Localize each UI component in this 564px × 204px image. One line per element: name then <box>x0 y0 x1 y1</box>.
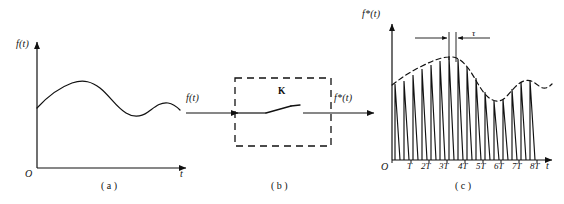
panel-c-tick-3T: 3T <box>439 161 449 171</box>
pulse <box>404 81 409 160</box>
panel-a <box>37 42 186 168</box>
panel-a-signal-curve <box>37 81 180 116</box>
panel-c-caption: ( c ) <box>455 180 471 191</box>
panel-c-tick-6T: 6T <box>494 161 504 171</box>
panel-c-tick-5T: 5T <box>476 161 486 171</box>
pulse <box>485 92 490 160</box>
pulse <box>476 78 481 160</box>
panel-b-input-label: f(t) <box>186 92 199 103</box>
pulse <box>413 75 418 160</box>
pulse <box>422 69 427 160</box>
sampling-figure <box>0 0 564 204</box>
panel-b-output-label: f*(t) <box>334 92 352 103</box>
pulse <box>512 89 517 160</box>
panel-a-x-axis-label: t <box>180 168 183 179</box>
pulse <box>467 67 472 160</box>
panel-c-tick-7T: 7T <box>512 161 522 171</box>
panel-a-origin-label: O <box>25 168 32 179</box>
panel-a-y-axis-label: f(t) <box>16 38 29 49</box>
pulse <box>530 80 535 160</box>
pulse <box>449 57 454 160</box>
panel-c-tick-2T: 2T <box>421 161 431 171</box>
panel-b-caption: ( b ) <box>271 180 288 191</box>
panel-c-x-axis-label: t <box>546 160 549 171</box>
pulse <box>503 99 508 160</box>
panel-c-pulse-train <box>395 57 535 160</box>
panel-c-y-axis-label: f*(t) <box>362 8 380 19</box>
panel-c-envelope-curve <box>392 57 552 101</box>
panel-c-tau-label: τ <box>472 28 475 38</box>
panel-b-switch-lever <box>266 106 291 113</box>
pulse <box>431 65 436 160</box>
pulse <box>440 61 445 160</box>
panel-c-tick-8T: 8T <box>530 161 540 171</box>
panel-c <box>392 24 552 163</box>
panel-a-caption: ( a ) <box>101 180 117 191</box>
pulse <box>494 101 499 160</box>
panel-b-switch-contact <box>291 105 300 106</box>
pulse <box>458 59 463 160</box>
pulse <box>521 82 526 160</box>
pulse <box>395 84 400 160</box>
panel-c-tick-T: T <box>407 161 412 171</box>
panel-b-switch-label: K <box>278 86 285 96</box>
panel-c-tick-4T: 4T <box>458 161 468 171</box>
panel-c-origin-label: O <box>381 161 388 172</box>
